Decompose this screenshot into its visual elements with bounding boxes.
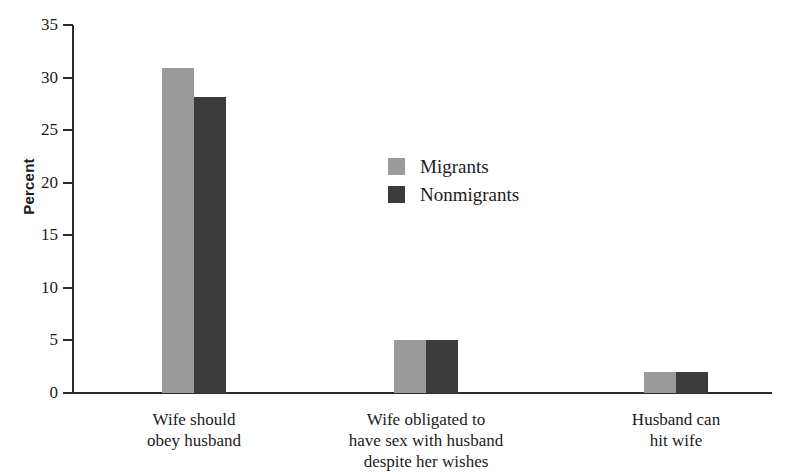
bar-group [644, 25, 708, 393]
x-axis-label-line: Husband can [536, 409, 794, 430]
x-axis-label-line: Wife obligated to [286, 409, 566, 430]
bar-migrants-2 [644, 372, 676, 393]
bar-chart: Percent 05101520253035 Migrants Nonmigra… [0, 0, 794, 472]
chart-legend: Migrants Nonmigrants [388, 152, 519, 208]
bar-nonmigrants-0 [194, 97, 226, 394]
y-tick-label: 15 [18, 226, 58, 243]
y-tick-label: 10 [18, 279, 58, 296]
bar-migrants-0 [162, 68, 194, 393]
legend-label-nonmigrants: Nonmigrants [420, 185, 519, 204]
legend-label-migrants: Migrants [420, 157, 489, 176]
y-tick-label: 20 [18, 174, 58, 191]
y-tick-label: 30 [18, 69, 58, 86]
legend-swatch-migrants [388, 158, 405, 175]
x-axis-label-2: Husband canhit wife [536, 409, 794, 451]
y-tick-label: 35 [18, 16, 58, 33]
bar-group [162, 25, 226, 393]
x-axis-label-line: hit wife [536, 430, 794, 451]
y-tick-label: 0 [18, 384, 58, 401]
bar-group [394, 25, 458, 393]
legend-item-migrants: Migrants [388, 152, 519, 180]
legend-item-nonmigrants: Nonmigrants [388, 180, 519, 208]
plot-area [74, 25, 772, 393]
bar-nonmigrants-1 [426, 340, 458, 393]
x-axis-label-1: Wife obligated tohave sex with husbandde… [286, 409, 566, 472]
x-axis-label-line: have sex with husband [286, 430, 566, 451]
y-tick-label: 25 [18, 121, 58, 138]
legend-swatch-nonmigrants [388, 186, 405, 203]
y-tick-label: 5 [18, 331, 58, 348]
x-axis-label-line: despite her wishes [286, 451, 566, 472]
bar-nonmigrants-2 [676, 372, 708, 393]
bar-migrants-1 [394, 340, 426, 393]
